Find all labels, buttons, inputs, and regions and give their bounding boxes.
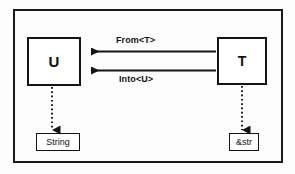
edge-label-into: Into<U> <box>119 74 153 84</box>
node-box-u: U <box>27 37 81 86</box>
diagram-canvas: U T String &str From<T> Into<U> <box>0 0 295 174</box>
node-label-u: U <box>49 53 60 70</box>
node-box-t: T <box>217 37 267 85</box>
node-label-t: T <box>238 53 247 69</box>
node-label-str: &str <box>236 137 252 147</box>
edge-label-from: From<T> <box>116 35 155 45</box>
node-box-string: String <box>36 133 80 151</box>
node-box-str: &str <box>229 133 259 151</box>
node-label-string: String <box>46 137 70 147</box>
